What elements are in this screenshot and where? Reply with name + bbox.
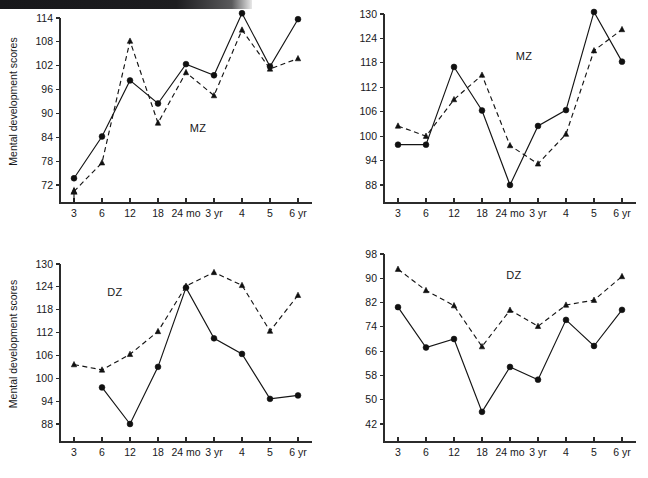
data-point-bottom-right-twin-a-5: [535, 377, 541, 383]
chart-axes-top-left: [60, 18, 312, 203]
x-tick-label-2: 12: [124, 207, 136, 219]
y-tick-label-124: 124: [359, 32, 377, 44]
x-tick-label-8: 6 yr: [289, 207, 307, 219]
data-point-top-right-twin-a-7: [591, 9, 597, 15]
chart-axes-top-right: [384, 14, 636, 203]
x-tick-label-5: 3 yr: [205, 207, 223, 219]
group-label-top-left: MZ: [190, 122, 207, 134]
x-tick-label-2: 12: [448, 446, 460, 458]
x-tick-label-2: 12: [124, 446, 136, 458]
y-tick-label-88: 88: [365, 179, 377, 191]
series-line-top-left-twin-b: [74, 30, 298, 191]
data-point-top-right-twin-a-6: [563, 107, 569, 113]
data-point-top-right-twin-a-3: [479, 108, 485, 114]
data-point-bottom-right-twin-a-3: [479, 409, 485, 415]
x-tick-label-3: 18: [152, 446, 164, 458]
data-point-bottom-left-twin-a-7: [267, 396, 273, 402]
data-point-top-left-twin-a-0: [71, 175, 77, 181]
data-point-top-left-twin-a-8: [295, 16, 301, 22]
data-point-bottom-right-twin-a-1: [423, 345, 429, 351]
data-point-bottom-right-twin-b-5: [535, 323, 540, 328]
data-point-top-right-twin-b-8: [619, 26, 624, 31]
data-point-bottom-left-twin-b-5: [211, 269, 216, 274]
y-tick-label-118: 118: [360, 56, 377, 68]
x-tick-label-4: 24 mo: [495, 446, 524, 458]
y-tick-label-94: 94: [41, 395, 53, 407]
x-tick-label-3: 18: [152, 207, 164, 219]
data-point-top-left-twin-b-1: [99, 160, 104, 165]
x-tick-label-4: 24 mo: [495, 207, 524, 219]
y-tick-label-106: 106: [359, 105, 377, 117]
data-point-top-left-twin-b-4: [183, 69, 188, 74]
y-axis-title-bottom-left: Mental development scores: [7, 280, 19, 408]
data-point-bottom-right-twin-a-4: [507, 364, 513, 370]
x-tick-label-6: 4: [239, 446, 245, 458]
data-point-top-left-twin-a-4: [183, 61, 189, 67]
data-point-bottom-left-twin-b-0: [71, 361, 76, 366]
data-point-top-right-twin-a-2: [451, 64, 457, 70]
data-point-top-right-twin-a-5: [535, 123, 541, 129]
x-tick-label-2: 12: [448, 207, 460, 219]
data-point-bottom-right-twin-b-8: [619, 273, 624, 278]
series-line-top-right-twin-a: [398, 12, 622, 185]
y-tick-label-114: 114: [36, 12, 53, 24]
y-tick-label-50: 50: [365, 393, 377, 405]
data-point-top-left-twin-b-6: [239, 27, 244, 32]
data-point-top-right-twin-b-0: [395, 123, 400, 128]
y-tick-label-100: 100: [359, 130, 377, 142]
data-point-top-right-twin-b-4: [507, 142, 512, 147]
data-point-top-right-twin-b-6: [563, 131, 568, 136]
y-tick-label-94: 94: [365, 154, 377, 166]
y-tick-label-124: 124: [35, 280, 53, 292]
chart-axes-bottom-right: [384, 254, 636, 442]
data-point-top-left-twin-a-2: [127, 78, 133, 84]
y-tick-label-108: 108: [35, 35, 53, 47]
data-point-bottom-right-twin-b-1: [423, 287, 428, 292]
y-tick-label-102: 102: [35, 59, 53, 71]
data-point-bottom-right-twin-b-0: [395, 266, 400, 271]
data-point-bottom-left-twin-a-5: [211, 335, 217, 341]
data-point-bottom-left-twin-a-3: [155, 364, 161, 370]
data-point-top-left-twin-a-6: [239, 10, 245, 16]
chart-svg-bottom-right: 425058667482909836121824 mo3 yr456 yrDZ: [324, 239, 648, 478]
data-point-bottom-right-twin-a-0: [395, 304, 401, 310]
x-tick-label-4: 24 mo: [171, 446, 200, 458]
x-tick-label-3: 18: [476, 207, 488, 219]
y-tick-label-84: 84: [41, 131, 53, 143]
y-tick-label-58: 58: [365, 369, 377, 381]
y-tick-label-90: 90: [365, 272, 377, 284]
x-tick-label-8: 6 yr: [613, 446, 631, 458]
x-tick-label-7: 5: [267, 207, 273, 219]
group-label-top-right: MZ: [516, 50, 533, 62]
series-line-bottom-right-twin-a: [398, 307, 622, 412]
x-tick-label-8: 6 yr: [289, 446, 307, 458]
y-tick-label-72: 72: [41, 179, 53, 191]
y-tick-label-42: 42: [365, 418, 377, 430]
x-tick-label-1: 6: [423, 207, 429, 219]
y-tick-label-118: 118: [36, 303, 53, 315]
data-point-top-right-twin-b-3: [479, 72, 484, 77]
x-tick-label-1: 6: [99, 446, 105, 458]
y-tick-label-112: 112: [360, 81, 377, 93]
data-point-bottom-right-twin-a-8: [619, 307, 625, 313]
group-label-bottom-right: DZ: [506, 269, 521, 281]
data-point-top-right-twin-a-1: [423, 142, 429, 148]
x-tick-label-0: 3: [71, 207, 77, 219]
data-point-bottom-right-twin-a-6: [563, 317, 569, 323]
y-tick-label-74: 74: [365, 320, 377, 332]
data-point-top-left-twin-a-5: [211, 72, 217, 78]
data-point-bottom-right-twin-b-7: [591, 297, 596, 302]
data-point-bottom-left-twin-b-8: [295, 292, 300, 297]
data-point-top-left-twin-b-8: [295, 55, 300, 60]
x-tick-label-5: 3 yr: [529, 446, 547, 458]
y-tick-label-96: 96: [41, 83, 53, 95]
x-tick-label-7: 5: [591, 446, 597, 458]
chart-panel-bottom-left: 889410010611211812413036121824 mo3 yr456…: [0, 239, 324, 478]
data-point-top-right-twin-a-8: [619, 59, 625, 65]
y-tick-label-106: 106: [35, 349, 53, 361]
chart-svg-bottom-left: 889410010611211812413036121824 mo3 yr456…: [0, 239, 324, 478]
data-point-top-left-twin-a-1: [99, 134, 105, 140]
x-tick-label-0: 3: [71, 446, 77, 458]
data-point-top-left-twin-b-2: [127, 38, 132, 43]
data-point-bottom-left-twin-a-8: [295, 393, 301, 399]
